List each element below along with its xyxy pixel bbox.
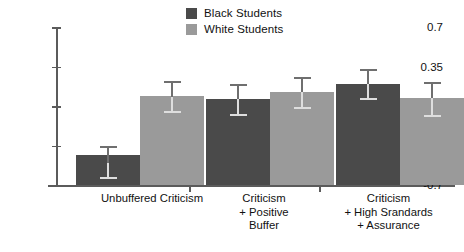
- legend-swatch-black-students: [186, 8, 197, 19]
- x-group-tick-2: [319, 185, 321, 192]
- y-tick-label-1: 0.35: [421, 62, 443, 73]
- error-bar-line-black-criticism-positive-buffer: [237, 84, 239, 99]
- x-axis-label-criticism-high-standards-assurance: Criticism + High Srandards + Assurance: [316, 192, 461, 233]
- error-bar-line-white-criticism-high-standards-assurance: [431, 82, 433, 98]
- error-bar-line-inner-black-unbuffered-criticism: [107, 163, 109, 178]
- error-bar-line-white-unbuffered-criticism: [171, 81, 173, 97]
- x-axis-label-criticism-positive-buffer: Criticism + Positive Buffer: [204, 192, 324, 233]
- plot-area: 0.7 0.35 3 -0.35 -0.7: [56, 27, 455, 185]
- y-tick-4: [52, 185, 61, 187]
- error-bar-cap-top-black-unbuffered-criticism: [100, 146, 117, 148]
- error-bar-cap-top-white-unbuffered-criticism: [164, 81, 181, 83]
- error-bar-cap-top-white-criticism-high-standards-assurance: [424, 82, 441, 84]
- y-tick-2: [52, 106, 61, 108]
- error-bar-line-inner-black-criticism-high-standards-assurance: [367, 84, 369, 99]
- error-bar-line-inner-white-criticism-positive-buffer: [301, 92, 303, 108]
- x-group-tick-1: [189, 185, 191, 192]
- error-bar-cap-top-white-criticism-positive-buffer: [294, 77, 311, 79]
- legend-item-black-students: Black Students: [186, 8, 283, 19]
- error-bar-line-inner-black-criticism-positive-buffer: [237, 99, 239, 115]
- x-axis-line: [48, 185, 455, 187]
- error-bar-line-white-criticism-positive-buffer: [301, 77, 303, 92]
- y-tick-0: [52, 27, 61, 29]
- y-tick-label-0: 0.7: [427, 22, 443, 33]
- y-tick-3: [52, 146, 61, 148]
- x-axis-labels: Unbuffered Criticism Criticism + Positiv…: [48, 192, 461, 250]
- y-tick-1: [52, 67, 61, 69]
- error-bar-cap-top-black-criticism-positive-buffer: [230, 84, 247, 86]
- error-bar-cap-top-black-criticism-high-standards-assurance: [360, 69, 377, 71]
- error-bar-line-inner-white-unbuffered-criticism: [171, 97, 173, 112]
- error-bar-line-inner-white-criticism-high-standards-assurance: [431, 98, 433, 116]
- error-bar-line-black-unbuffered-criticism: [107, 146, 109, 163]
- legend-label-black-students: Black Students: [204, 8, 282, 19]
- error-bar-line-black-criticism-high-standards-assurance: [367, 69, 369, 84]
